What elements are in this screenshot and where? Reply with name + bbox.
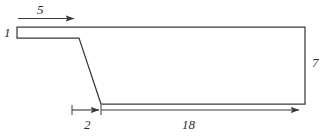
dimension-label-7: 7: [312, 56, 319, 69]
dimension-label-18: 18: [182, 118, 195, 131]
dimension-line-2: [72, 105, 101, 115]
dimension-label-1: 1: [4, 26, 11, 39]
part-outline: [17, 27, 305, 104]
dimension-figure: 5 1 7 2 18: [0, 0, 330, 139]
dimension-label-5: 5: [37, 3, 44, 16]
figure-canvas: [0, 0, 330, 139]
dimension-label-2: 2: [84, 118, 91, 131]
